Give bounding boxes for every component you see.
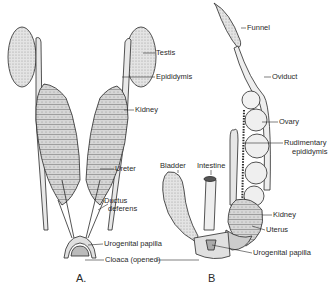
intestine-opening (204, 177, 216, 182)
label-ureter: Ureter (115, 165, 136, 173)
label-kidney-a: Kidney (135, 106, 158, 114)
ovary-egg (245, 162, 267, 184)
ovary-egg (245, 134, 269, 158)
urogenital-papilla-b (206, 240, 216, 250)
label-intestine: Intestine (197, 162, 225, 170)
bladder (163, 172, 198, 242)
panel-letter-b: B (208, 272, 215, 284)
left-testis (8, 27, 36, 87)
label-rudimentary-epididymis-2: epididymis (292, 148, 327, 156)
rudimentary-tube (230, 129, 238, 205)
ovary-egg (245, 109, 267, 131)
label-bladder: Bladder (160, 162, 186, 170)
label-oviduct: Oviduct (272, 73, 297, 81)
label-urogenital-papilla-b: Urogenital papilla (253, 249, 311, 257)
panel-a-drawing (8, 27, 156, 258)
label-epididymis: Epididymis (156, 73, 192, 81)
label-uterus: Uterus (266, 226, 288, 234)
funnel (214, 3, 241, 48)
label-testis: Testis (156, 49, 175, 57)
label-urogenital-papilla-a: Urogenital papilla (104, 240, 162, 248)
intestine (204, 180, 216, 230)
label-rudimentary-epididymis-1: Rudimentary (284, 139, 327, 147)
label-cloaca: Cloaca (opened) (105, 256, 160, 264)
label-ovary: Ovary (279, 118, 299, 126)
panel-b-drawing (163, 3, 271, 259)
urogenital-papilla-a (71, 246, 89, 256)
right-kidney (86, 86, 128, 205)
reproductive-system-illustration (0, 0, 328, 289)
label-ductus-deferens-2: deferens (108, 205, 137, 213)
label-kidney-b: Kidney (273, 211, 296, 219)
label-funnel: Funnel (247, 24, 270, 32)
ovary-egg (242, 91, 260, 109)
panel-letter-a: A. (76, 272, 86, 284)
